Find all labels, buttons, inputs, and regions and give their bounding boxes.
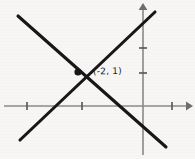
x-axis-arrowhead [186, 102, 193, 111]
y-axis-arrowhead [139, 3, 148, 10]
intersection-point-label: (-2, 1) [93, 66, 122, 77]
graph-canvas [0, 0, 195, 159]
coordinate-graph-figure: (-2, 1) [0, 0, 195, 159]
intersection-point-dot [74, 68, 81, 75]
